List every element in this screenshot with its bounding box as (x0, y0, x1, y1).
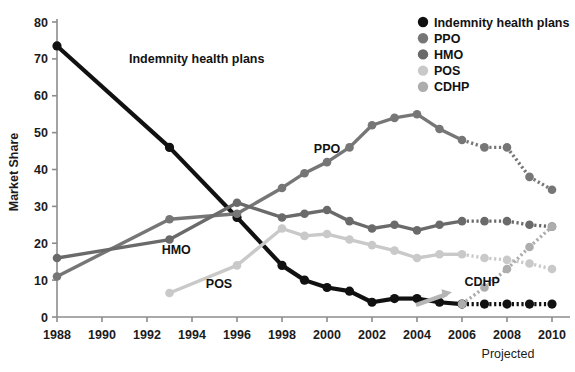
data-point-marker (233, 198, 242, 207)
y-axis-tick-label: 30 (34, 200, 48, 214)
x-axis-tick-label: 2000 (313, 328, 341, 342)
data-point-marker (435, 125, 444, 134)
legend-marker-indemnity-health-plans (418, 17, 428, 27)
x-axis-tick-label: 1990 (88, 328, 116, 342)
x-axis-tick-label: 2010 (538, 328, 566, 342)
legend-label-hmo: HMO (434, 48, 463, 62)
chart-container: 01020304050607080 1988199019921994199619… (0, 0, 575, 372)
legend-marker-hmo (418, 49, 428, 59)
data-point-marker (458, 300, 467, 309)
legend-label-cdhp: CDHP (434, 80, 469, 94)
data-point-marker (548, 222, 557, 231)
data-point-marker (390, 294, 399, 303)
data-point-marker (368, 121, 377, 130)
y-axis-tick-label: 60 (34, 89, 48, 103)
x-axis-tick-label: 1996 (223, 328, 251, 342)
data-point-marker (368, 224, 377, 233)
data-point-marker (525, 221, 534, 230)
series-label-hmo: HMO (162, 243, 191, 257)
data-point-marker (458, 136, 467, 145)
data-point-marker (435, 221, 444, 230)
data-point-marker (300, 276, 309, 285)
data-point-marker (480, 217, 489, 226)
data-point-marker (413, 110, 422, 119)
series-label-ppo: PPO (314, 142, 341, 156)
x-axis-tick-label: 1994 (178, 328, 206, 342)
data-point-marker (323, 230, 332, 239)
data-point-marker (165, 289, 174, 298)
data-point-marker (390, 246, 399, 255)
data-point-marker (300, 232, 309, 241)
data-point-marker (480, 254, 489, 263)
data-point-marker (458, 217, 467, 226)
y-axis-tick-label: 20 (34, 237, 48, 251)
legend-label-ppo: PPO (434, 32, 461, 46)
data-point-marker (480, 299, 489, 308)
legend-marker-ppo (418, 33, 428, 43)
data-point-marker (165, 143, 174, 152)
data-point-marker (548, 185, 557, 194)
y-axis-tick-label: 10 (34, 274, 48, 288)
data-point-marker (390, 114, 399, 123)
data-point-marker (300, 169, 309, 178)
data-point-marker (367, 298, 376, 307)
y-axis-title: Market Share (7, 133, 21, 212)
series-label-pos: POS (206, 277, 232, 291)
x-axis-tick-label: 2002 (358, 328, 386, 342)
data-point-marker (277, 261, 286, 270)
x-axis-tick-label: 2006 (448, 328, 476, 342)
data-point-marker (525, 243, 534, 252)
x-axis-tick-label: 2008 (493, 328, 521, 342)
data-point-marker (525, 259, 534, 268)
projected-axis-note: Projected (482, 347, 535, 361)
legend-marker-cdhp (418, 82, 428, 92)
data-point-marker (345, 217, 354, 226)
y-axis-tick-label: 70 (34, 52, 48, 66)
legend-marker-pos (418, 65, 428, 75)
series-label-cdhp: CDHP (465, 275, 500, 289)
data-point-marker (345, 287, 354, 296)
data-point-marker (52, 41, 61, 50)
data-point-marker (480, 143, 489, 152)
y-axis-tick-label: 80 (34, 16, 48, 30)
data-point-marker (503, 217, 512, 226)
x-axis-tick-label: 1988 (43, 328, 71, 342)
data-point-marker (233, 209, 242, 218)
data-point-marker (322, 283, 331, 292)
data-point-marker (503, 256, 512, 265)
data-point-marker (525, 173, 534, 182)
data-point-marker (278, 213, 287, 222)
data-point-marker (503, 265, 512, 274)
y-axis-tick-label: 40 (34, 163, 48, 177)
data-point-marker (547, 299, 556, 308)
data-point-marker (503, 143, 512, 152)
data-point-marker (165, 215, 174, 224)
data-point-marker (278, 184, 287, 193)
data-point-marker (548, 265, 557, 274)
data-point-marker (53, 272, 62, 281)
y-axis-tick-label: 0 (41, 311, 48, 325)
data-point-marker (345, 143, 354, 152)
y-axis-tick-label: 50 (34, 126, 48, 140)
x-axis-tick-label: 2004 (403, 328, 431, 342)
data-point-marker (323, 158, 332, 167)
data-point-marker (435, 250, 444, 259)
x-axis-tick-label: 1992 (133, 328, 161, 342)
series-label-indemnity-health-plans: Indemnity health plans (129, 52, 264, 66)
data-point-marker (458, 250, 467, 259)
x-axis-tick-label: 1998 (268, 328, 296, 342)
data-point-marker (345, 235, 354, 244)
data-point-marker (323, 206, 332, 215)
market-share-line-chart: 01020304050607080 1988199019921994199619… (0, 0, 575, 372)
data-point-marker (368, 241, 377, 250)
data-point-marker (233, 261, 242, 270)
data-point-marker (53, 254, 62, 263)
data-point-marker (300, 209, 309, 218)
data-point-marker (278, 224, 287, 233)
legend-label-pos: POS (434, 64, 460, 78)
data-point-marker (413, 226, 422, 235)
data-point-marker (525, 299, 534, 308)
data-point-marker (502, 299, 511, 308)
data-point-marker (413, 254, 422, 263)
legend-label-indemnity-health-plans: Indemnity health plans (434, 16, 569, 30)
